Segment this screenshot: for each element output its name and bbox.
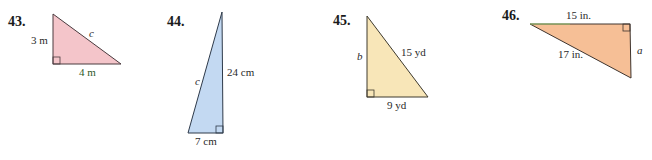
label-leg-horizontal-46: 15 in. — [566, 9, 591, 21]
label-leg-horizontal-44: 7 cm — [195, 135, 217, 147]
problem-number-44: 44. — [167, 14, 185, 30]
label-hypotenuse-44: c — [195, 75, 200, 87]
problem-number-46: 46. — [502, 8, 520, 24]
triangle-43 — [53, 14, 121, 64]
label-leg-horizontal-43: 4 m — [79, 66, 96, 78]
label-hypotenuse-43: c — [89, 27, 94, 39]
label-hypotenuse-45: 15 yd — [401, 46, 426, 58]
label-hypotenuse-46: 17 in. — [558, 48, 583, 60]
label-leg-vertical-44: 24 cm — [227, 66, 254, 78]
triangle-44 — [188, 12, 223, 133]
label-leg-vertical-43: 3 m — [31, 34, 48, 46]
label-leg-horizontal-45: 9 yd — [387, 99, 406, 111]
triangle-figures — [0, 0, 652, 160]
problem-number-43: 43. — [8, 14, 26, 30]
label-leg-vertical-45: b — [357, 50, 363, 62]
label-leg-vertical-46: a — [637, 44, 643, 56]
problem-number-45: 45. — [333, 13, 351, 29]
